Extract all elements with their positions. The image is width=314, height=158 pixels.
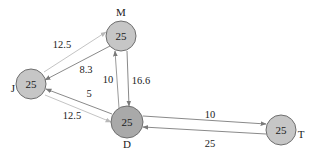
node-name-label: D <box>123 138 131 150</box>
edge-d-to-m: 10 <box>103 51 119 108</box>
edge-weight-label: 12.5 <box>53 39 71 50</box>
edge-m-to-d: 16.6 <box>127 51 150 106</box>
node-value: 25 <box>276 124 288 136</box>
edge-weight-label: 25 <box>205 138 216 149</box>
node-m[interactable]: 25M <box>106 6 136 51</box>
edge-m-to-j: 8.3 <box>45 46 110 80</box>
node-name-label: J <box>11 82 16 94</box>
edge-weight-label: 16.6 <box>132 75 150 86</box>
node-t[interactable]: 25T <box>266 115 305 145</box>
edge-weight-label: 10 <box>103 74 114 85</box>
edge-line <box>45 46 110 80</box>
node-d[interactable]: 25D <box>111 106 143 150</box>
node-value: 25 <box>26 78 38 90</box>
edge-line <box>143 127 266 134</box>
edge-t-to-d: 25 <box>143 127 266 149</box>
edge-weight-label: 8.3 <box>79 64 92 75</box>
node-name-label: M <box>116 6 126 18</box>
node-value: 25 <box>122 116 134 128</box>
graph-canvas: 12.58.31016.6512.51025 25M25J25D25T <box>0 0 314 158</box>
edges-layer: 12.58.31016.6512.51025 <box>44 32 266 149</box>
edge-weight-label: 12.5 <box>63 110 81 121</box>
nodes-layer: 25M25J25D25T <box>11 6 305 150</box>
graph-svg: 12.58.31016.6512.51025 25M25J25D25T <box>0 0 314 158</box>
node-j[interactable]: 25J <box>11 69 46 99</box>
edge-j-to-d: 12.5 <box>45 95 111 122</box>
edge-weight-label: 10 <box>205 109 216 120</box>
edge-j-to-m: 12.5 <box>44 32 106 72</box>
edge-weight-label: 5 <box>86 88 91 99</box>
edge-line <box>127 51 129 106</box>
edge-line <box>115 51 119 108</box>
node-name-label: T <box>298 128 305 140</box>
edge-d-to-t: 10 <box>143 109 266 125</box>
node-value: 25 <box>116 30 128 42</box>
